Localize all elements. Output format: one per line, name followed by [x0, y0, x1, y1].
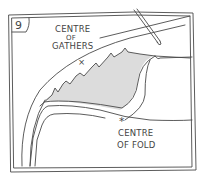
lower-strip-line-2 — [35, 114, 105, 167]
svg-text:OF FOLD: OF FOLD — [117, 140, 156, 150]
svg-text:CENTRE: CENTRE — [118, 128, 153, 138]
figure-number: 9 — [15, 19, 22, 32]
centre-of-fold-label: CENTRE OF FOLD — [117, 128, 156, 150]
figure-number-tab: 9 — [12, 18, 29, 32]
fold-marker: * — [119, 115, 125, 128]
svg-text:GATHERS: GATHERS — [52, 41, 93, 51]
svg-text:CENTRE: CENTRE — [55, 24, 90, 34]
sewing-diagram: 9 × * CENTRE OF GATHERS CENTRE OF FOLD — [0, 0, 206, 185]
gathers-marker: × — [78, 57, 85, 67]
centre-of-gathers-label: CENTRE OF GATHERS — [52, 24, 93, 51]
lower-strip-line-1 — [30, 106, 192, 167]
